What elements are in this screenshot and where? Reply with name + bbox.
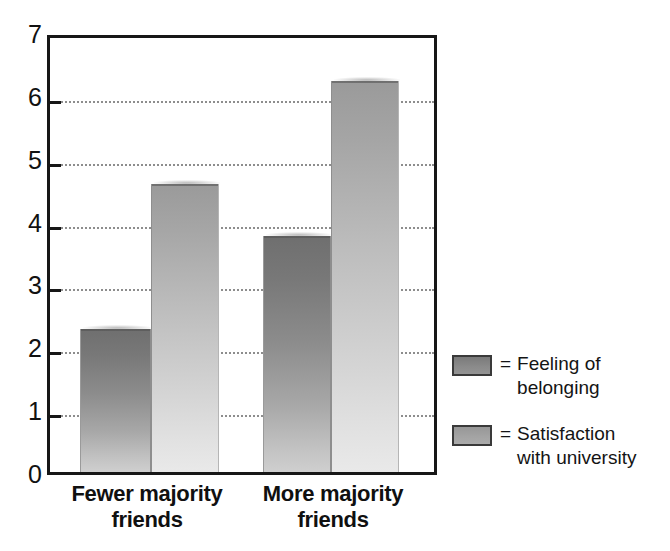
legend-label-feeling-of-belonging: Feeling of belonging bbox=[517, 352, 600, 400]
y-axis-tick-labels: 7 6 5 4 3 2 1 0 bbox=[14, 35, 42, 475]
legend-item-satisfaction-with-university: = Satisfaction with university bbox=[452, 422, 666, 470]
x-group-label-line2: friends bbox=[57, 507, 237, 533]
legend-label-satisfaction-with-university: Satisfaction with university bbox=[517, 422, 636, 470]
x-axis-group-labels: Fewer majority friends More majority fri… bbox=[47, 481, 437, 547]
bar-top-edge bbox=[264, 236, 330, 238]
chart-legend: = Feeling of belonging = Satisfaction wi… bbox=[452, 352, 666, 492]
bar-top-edge bbox=[81, 329, 150, 331]
y-tick-label-3: 3 bbox=[14, 273, 42, 298]
bar-fewer-satisfaction-with-university bbox=[151, 184, 219, 472]
y-tick-label-4: 4 bbox=[14, 211, 42, 236]
x-group-label-line1: Fewer majority bbox=[57, 481, 237, 507]
x-group-label-line2: friends bbox=[243, 507, 423, 533]
x-group-label-more-majority-friends: More majority friends bbox=[243, 481, 423, 533]
bar-top-edge bbox=[152, 184, 218, 186]
y-tick-label-6: 6 bbox=[14, 85, 42, 110]
legend-equals-sign: = bbox=[500, 352, 511, 376]
y-tick-label-2: 2 bbox=[14, 336, 42, 361]
x-group-label-line1: More majority bbox=[243, 481, 423, 507]
x-group-label-fewer-majority-friends: Fewer majority friends bbox=[57, 481, 237, 533]
bar-chart-figure: 7 6 5 4 3 2 1 0 bbox=[0, 0, 670, 551]
y-tick-label-5: 5 bbox=[14, 148, 42, 173]
bar-more-feeling-of-belonging bbox=[263, 236, 331, 472]
y-tick-label-7: 7 bbox=[14, 22, 42, 47]
legend-equals-sign: = bbox=[500, 422, 511, 446]
bars-layer bbox=[50, 38, 434, 472]
bar-fewer-feeling-of-belonging bbox=[80, 329, 151, 472]
bar-more-satisfaction-with-university bbox=[331, 81, 399, 472]
legend-swatch-icon-satisfaction-with-university bbox=[452, 425, 492, 446]
plot-area bbox=[47, 35, 437, 475]
bar-top-edge bbox=[332, 81, 398, 83]
legend-item-feeling-of-belonging: = Feeling of belonging bbox=[452, 352, 666, 400]
legend-swatch-icon-feeling-of-belonging bbox=[452, 355, 492, 376]
y-tick-label-1: 1 bbox=[14, 399, 42, 424]
y-tick-label-0: 0 bbox=[14, 462, 42, 487]
